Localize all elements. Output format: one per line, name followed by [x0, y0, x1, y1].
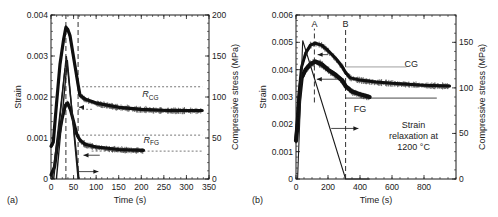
annotation: Strain: [402, 120, 426, 130]
annotation: relaxation at: [389, 131, 439, 141]
y2-tick-label: 100: [459, 83, 473, 93]
y2-tick-label: 50: [212, 133, 222, 143]
y-tick-label: 0.003: [27, 51, 49, 61]
arrow-right-icon: [353, 126, 358, 130]
annotation-main: relaxation at: [389, 131, 439, 141]
y-tick-label: 0.002: [27, 92, 49, 102]
arrow-left-icon: [318, 52, 323, 56]
annotation-main: 1200 °C: [397, 142, 430, 152]
arrow-left-icon: [79, 105, 84, 109]
arrow-right-icon: [93, 169, 98, 173]
annotation: FG: [354, 104, 367, 114]
y-tick-label: 0.006: [272, 10, 294, 20]
panel-label: (a): [7, 195, 18, 205]
y-tick-label: 0.005: [272, 37, 294, 47]
vline-label: B: [343, 19, 349, 29]
y-axis-title: Strain: [13, 85, 23, 109]
y-tick-label: 0.004: [272, 65, 294, 75]
x-tick-label: 200: [321, 182, 335, 192]
vline-label: A: [311, 19, 317, 29]
panel-label: (b): [252, 195, 263, 205]
annotation-sub: FG: [150, 139, 159, 146]
x-tick-label: 200: [134, 182, 148, 192]
x-axis-title: Time (s): [114, 195, 147, 205]
x-tick-label: 300: [179, 182, 193, 192]
annotation: RFG: [143, 135, 159, 147]
annotation: CG: [404, 59, 418, 69]
figure: 05010015020025030035000.0010.0020.0030.0…: [0, 0, 498, 217]
x-axis-title: Time (s): [360, 195, 393, 205]
y-tick-label: 0.001: [272, 147, 294, 157]
annotation-sub: CG: [149, 94, 159, 101]
strain-noise: [51, 101, 143, 178]
y-axis-title: Strain: [258, 85, 268, 109]
annotation: RCG: [142, 89, 158, 101]
y2-tick-label: 0: [459, 174, 464, 184]
y2-tick-label: 100: [212, 92, 226, 102]
y-tick-label: 0.004: [27, 10, 49, 20]
arrow-left-icon: [84, 153, 89, 157]
annotation: 1200 °C: [397, 142, 430, 152]
annotation-main: CG: [404, 59, 418, 69]
plot-frame: [51, 15, 209, 179]
y-tick-label: 0: [43, 174, 48, 184]
x-tick-label: 100: [89, 182, 103, 192]
panel-a-chart: 05010015020025030035000.0010.0020.0030.0…: [7, 10, 240, 205]
x-tick-label: 0: [49, 182, 54, 192]
y2-axis-title: Compressive stress (MPa): [230, 44, 240, 150]
x-tick-label: 800: [417, 182, 431, 192]
panel-b-chart: 020040060080000.0010.0020.0030.0040.0050…: [252, 10, 487, 205]
y2-tick-label: 150: [212, 51, 226, 61]
strain-curve: [51, 103, 144, 175]
y-tick-label: 0.002: [272, 119, 294, 129]
y2-tick-label: 150: [459, 37, 473, 47]
annotation-main: Strain: [402, 120, 426, 130]
x-tick-label: 0: [294, 182, 299, 192]
y2-axis-title: Compressive stress (MPa): [477, 44, 487, 150]
x-tick-label: 150: [112, 182, 126, 192]
y-tick-label: 0: [288, 174, 293, 184]
y-tick-label: 0.001: [27, 133, 49, 143]
strain-curve: [296, 43, 450, 138]
arrow-left-icon: [317, 77, 322, 81]
y2-tick-label: 200: [212, 10, 226, 20]
x-tick-label: 50: [69, 182, 79, 192]
y2-tick-label: 0: [212, 174, 217, 184]
y-tick-label: 0.003: [272, 92, 294, 102]
x-tick-label: 600: [385, 182, 399, 192]
y2-tick-label: 50: [459, 128, 469, 138]
annotation-main: FG: [354, 104, 367, 114]
x-tick-label: 250: [157, 182, 171, 192]
x-tick-label: 400: [353, 182, 367, 192]
